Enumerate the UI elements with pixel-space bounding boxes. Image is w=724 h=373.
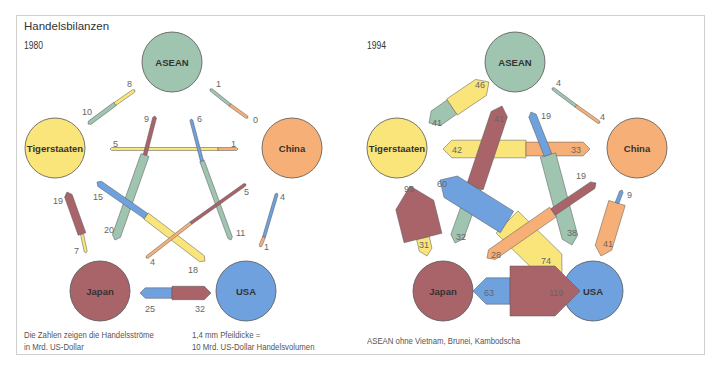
flow-value-label: 33	[571, 145, 581, 155]
node-japan: Japan	[70, 261, 130, 321]
flow-value-label: 7	[74, 246, 79, 256]
flow-value-label: 41	[494, 114, 504, 124]
flow-value-label: 28	[491, 250, 501, 260]
note-units-line1: Die Zahlen zeigen die Handelsströme	[24, 329, 154, 341]
flow-value-label: 20	[104, 225, 114, 235]
node-label: Tigerstaaten	[369, 143, 426, 154]
flow-value-label: 74	[541, 256, 551, 266]
flow-arrow-japan-to-tigerstaaten	[396, 186, 442, 243]
flow-value-label: 60	[437, 179, 447, 189]
trade-flow-diagram: ASEANTigerstaatenChinaJapanUSA1081051209…	[0, 0, 724, 373]
flow-arrow-asean-to-usa	[200, 160, 233, 240]
flow-value-label: 4	[280, 192, 285, 202]
panel-year-1994: 1994	[367, 40, 386, 51]
flow-arrow-asean-to-tigerstaaten	[88, 102, 116, 124]
node-japan: Japan	[413, 261, 473, 321]
flow-value-label: 4	[150, 257, 155, 267]
flow-value-label: 31	[419, 240, 429, 250]
flow-value-label: 0	[253, 115, 258, 125]
flow-arrow-china-to-japan	[146, 222, 192, 258]
flow-value-label: 93	[404, 184, 414, 194]
node-tigerstaaten: Tigerstaaten	[367, 118, 427, 178]
node-asean: ASEAN	[142, 32, 202, 92]
node-tigerstaaten: Tigerstaaten	[25, 118, 85, 178]
flow-value-label: 6	[197, 114, 202, 124]
note-scale-line1: 1,4 mm Pfeildicke =	[192, 329, 315, 341]
node-label: ASEAN	[498, 57, 531, 68]
flow-value-label: 41	[603, 239, 613, 249]
node-china: China	[262, 118, 322, 178]
flow-value-label: 119	[549, 288, 563, 298]
flow-arrow-usa-to-japan	[140, 288, 172, 299]
flow-arrow-tigerstaaten-to-japan	[81, 234, 88, 253]
node-label: Japan	[86, 286, 114, 297]
flow-value-label: 9	[627, 190, 632, 200]
flow-value-label: 38	[567, 228, 577, 238]
node-label: China	[279, 143, 306, 154]
flow-arrow-usa-to-asean	[190, 119, 204, 161]
panel-1980: ASEANTigerstaatenChinaJapanUSA1081051209…	[25, 32, 322, 321]
flow-arrow-asean-to-china	[552, 88, 577, 108]
node-label: China	[624, 143, 651, 154]
flow-value-label: 32	[195, 304, 205, 314]
note-scale: 1,4 mm Pfeildicke = 10 Mrd. US-Dollar Ha…	[192, 329, 315, 353]
flow-value-label: 10	[82, 107, 92, 117]
note-asean-line: ASEAN ohne Vietnam, Brunei, Kambodscha	[367, 335, 520, 347]
flow-value-label: 63	[484, 288, 494, 298]
node-label: ASEAN	[155, 57, 188, 68]
flow-value-label: 46	[475, 80, 485, 90]
node-label: Tigerstaaten	[27, 143, 84, 154]
node-asean: ASEAN	[485, 32, 545, 92]
flow-value-label: 18	[188, 265, 198, 275]
flow-value-label: 5	[244, 187, 249, 197]
node-label: USA	[583, 286, 603, 297]
flow-value-label: 5	[113, 139, 118, 149]
flow-value-label: 8	[127, 79, 132, 89]
flow-value-label: 19	[541, 111, 551, 121]
flow-arrow-japan-to-usa	[172, 286, 211, 299]
node-label: USA	[236, 286, 256, 297]
flow-arrow-tigerstaaten-to-asean	[114, 90, 135, 106]
node-label: Japan	[429, 286, 457, 297]
flow-value-label: 32	[456, 232, 466, 242]
flow-value-label: 15	[93, 192, 103, 202]
flow-arrow-usa-to-china	[615, 190, 623, 204]
flow-arrow-tigerstaaten-to-china	[110, 148, 218, 151]
flow-value-label: 19	[576, 171, 586, 181]
flow-value-label: 19	[53, 196, 63, 206]
flow-arrow-japan-to-china	[190, 184, 246, 225]
note-scale-line2: 10 Mrd. US-Dollar Handelsvolumen	[192, 341, 315, 353]
flow-value-label: 4	[600, 112, 605, 122]
flow-value-label: 1	[231, 139, 236, 149]
nodes: ASEANTigerstaatenChinaJapanUSA	[25, 32, 322, 321]
flow-value-label: 42	[452, 145, 462, 155]
flow-arrow-china-to-asean	[575, 105, 600, 124]
node-china: China	[607, 118, 667, 178]
note-units: Die Zahlen zeigen die Handelsströme in M…	[24, 329, 154, 353]
flow-arrow-asean-to-china	[210, 89, 231, 106]
chart-title: Handelsbilanzen	[24, 20, 109, 32]
flow-value-label: 11	[236, 228, 245, 238]
note-asean-definition: ASEAN ohne Vietnam, Brunei, Kambodscha	[367, 335, 520, 347]
panel-year-1980: 1980	[24, 40, 43, 51]
flow-value-label: 4	[556, 78, 561, 88]
flow-value-label: 9	[144, 114, 149, 124]
flow-arrow-usa-to-china	[263, 193, 278, 237]
flow-arrow-japan-to-tigerstaaten	[65, 192, 86, 235]
flow-value-label: 1	[264, 242, 269, 252]
panel-1994: ASEANTigerstaatenChinaJapanUSA4146444233…	[367, 32, 667, 321]
flow-value-label: 41	[432, 118, 442, 128]
note-units-line2: in Mrd. US-Dollar	[24, 341, 154, 353]
node-usa: USA	[216, 261, 276, 321]
flow-value-label: 25	[145, 304, 155, 314]
flow-arrow-china-to-asean	[229, 104, 248, 119]
flow-value-label: 1	[216, 79, 221, 89]
